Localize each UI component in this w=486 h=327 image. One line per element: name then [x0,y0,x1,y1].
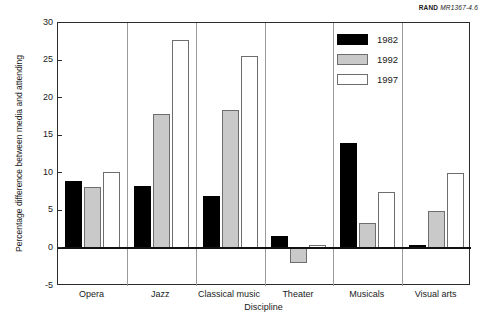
legend-label-1992: 1992 [377,54,398,65]
x-tick-label-classical-music: Classical music [195,288,264,302]
document-id: MR1367-4.6 [440,4,478,11]
bar-opera-1992 [84,187,101,249]
bar-classical-music-1992 [222,110,239,248]
legend-item-1992: 1992 [337,51,433,67]
bar-jazz-1982 [134,186,151,248]
legend-label-1982: 1982 [377,34,398,45]
y-tick-mark [57,97,62,98]
legend-item-1982: 1982 [337,31,433,47]
x-tick-label-jazz: Jazz [126,288,195,302]
legend-swatch-1992 [337,54,368,65]
y-axis-tick-labels: -5051015202530 [0,0,53,327]
y-tick-mark [57,172,62,173]
bar-visual-arts-1997 [447,173,464,249]
x-tick-label-opera: Opera [57,288,126,302]
legend-swatch-1997 [337,74,368,85]
bar-classical-music-1982 [203,196,220,249]
bar-theater-1992 [290,248,307,263]
chart-figure: RAND MR1367-4.6 Percentage difference be… [0,0,486,327]
y-tick-label: 25 [27,55,53,64]
bar-opera-1997 [103,172,120,249]
y-tick-mark [57,135,62,136]
bar-opera-1982 [65,181,82,249]
y-tick-label: 0 [27,243,53,252]
bar-jazz-1992 [153,114,170,249]
y-tick-label: 10 [27,168,53,177]
y-tick-label: 30 [27,18,53,27]
bar-classical-music-1997 [241,56,258,248]
legend: 198219921997 [337,31,433,91]
bar-musicals-1982 [340,143,357,248]
bar-musicals-1992 [359,223,376,249]
bar-musicals-1997 [378,192,395,248]
legend-label-1997: 1997 [377,74,398,85]
legend-item-1997: 1997 [337,71,433,87]
source-credit: RAND MR1367-4.6 [419,4,478,11]
y-tick-label: 20 [27,93,53,102]
bar-visual-arts-1992 [428,211,445,249]
x-tick-label-musicals: Musicals [332,288,401,302]
y-tick-label: -5 [27,281,53,290]
x-tick-label-theater: Theater [263,288,332,302]
y-tick-label: 15 [27,130,53,139]
zero-baseline [58,247,471,249]
y-tick-mark [57,210,62,211]
bar-jazz-1997 [172,40,189,248]
x-tick-label-visual-arts: Visual arts [401,288,470,302]
x-axis-tick-labels: OperaJazzClassical musicTheaterMusicalsV… [57,288,470,302]
x-axis-title: Discipline [57,302,470,312]
legend-swatch-1982 [337,34,368,45]
y-tick-mark [57,247,62,248]
y-tick-label: 5 [27,205,53,214]
y-tick-mark [57,60,62,61]
rand-logo-text: RAND [419,4,439,11]
